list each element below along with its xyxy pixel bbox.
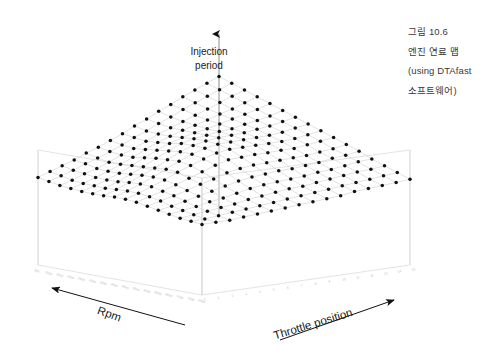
surface-point: [120, 153, 124, 157]
surface-point: [157, 132, 161, 136]
surface-point: [221, 196, 225, 200]
surface-point: [228, 148, 232, 152]
rpm-tick-label: 2500: [77, 276, 85, 282]
surface-point: [216, 142, 220, 146]
surface-point: [243, 113, 247, 117]
throttle-tick-label: 2: [231, 294, 234, 298]
surface-point: [294, 115, 298, 119]
surface-point: [331, 157, 335, 161]
surface-point: [283, 206, 287, 210]
surface-point: [305, 154, 309, 158]
surface-point: [260, 194, 264, 198]
surface-point: [140, 173, 144, 177]
figure-container: 8000750070006500600055005000450040003500…: [0, 0, 502, 361]
surface-point: [301, 184, 305, 188]
surface-point: [185, 189, 189, 193]
surface-point: [218, 88, 222, 92]
surface-point: [168, 135, 172, 139]
surface-point: [48, 170, 52, 174]
surface-point: [218, 130, 222, 134]
surface-point: [91, 192, 95, 196]
surface-point: [159, 199, 163, 203]
surface-point: [169, 103, 173, 107]
surface-point: [243, 131, 247, 135]
surface-point: [157, 122, 161, 126]
surface-point: [325, 197, 329, 201]
surface-point: [330, 168, 334, 172]
surface-point: [227, 158, 231, 162]
surface-point: [233, 202, 237, 206]
surface-point: [313, 191, 317, 195]
throttle-tick-label: 7: [300, 284, 303, 288]
surface-point: [130, 164, 134, 168]
surface-point: [193, 113, 197, 117]
surface-point: [191, 144, 195, 148]
surface-point: [215, 151, 219, 155]
surface-point: [217, 136, 221, 140]
surface-point: [194, 205, 198, 209]
surface-point: [318, 150, 322, 154]
surface-point: [129, 172, 133, 176]
surface-point: [208, 200, 212, 204]
surface-point: [281, 109, 285, 113]
surface-point: [205, 133, 209, 137]
surface-point: [85, 151, 89, 155]
surface-point: [157, 110, 161, 114]
surface-point: [299, 194, 303, 198]
surface-point: [132, 147, 136, 151]
surface-point: [70, 178, 74, 182]
surface-point: [254, 144, 257, 148]
surface-point: [187, 177, 191, 181]
surface-point: [121, 132, 125, 136]
surface-point: [96, 156, 100, 160]
surface-point: [203, 217, 207, 221]
surface-point: [36, 176, 40, 180]
surface-point: [157, 208, 161, 212]
surface-point: [344, 154, 348, 158]
surface-point: [217, 75, 221, 79]
surface-point: [293, 137, 297, 141]
surface-point: [266, 151, 270, 155]
surface-point: [229, 140, 233, 144]
surface-point: [230, 127, 234, 131]
throttle-tick-label: 1: [217, 296, 220, 300]
surface-point: [156, 141, 160, 145]
surface-point: [120, 143, 124, 147]
surface-point: [235, 192, 239, 196]
surface-point: [142, 165, 146, 169]
throttle-tick-label: 11: [356, 275, 361, 280]
surface-point: [264, 172, 268, 176]
surface-point: [113, 195, 117, 199]
surface-point: [193, 131, 197, 135]
surface-point: [169, 115, 173, 119]
throttle-tick-label: 12: [370, 273, 375, 278]
surface-point: [155, 148, 159, 152]
surface-point: [256, 119, 260, 123]
surface-point: [256, 212, 260, 216]
surface-point: [218, 101, 222, 105]
surface-point: [286, 197, 290, 201]
throttle-tick-label: 13: [383, 271, 388, 276]
surface-point: [252, 163, 256, 167]
throttle-tick-label: 14: [397, 269, 402, 274]
surface-point: [212, 177, 216, 181]
surface-point: [357, 149, 361, 153]
surface-point: [161, 189, 165, 193]
surface-point: [268, 114, 272, 118]
surface-point: [218, 112, 222, 116]
surface-point: [281, 130, 285, 134]
surface-point: [255, 136, 259, 140]
surface-point: [170, 204, 174, 208]
surface-point: [133, 124, 137, 128]
surface-point: [244, 207, 248, 211]
surface-point: [163, 178, 167, 182]
surface-point: [148, 195, 152, 199]
surface-point: [292, 147, 296, 151]
surface-point: [242, 138, 246, 142]
rpm-tick-label: 4500: [121, 284, 129, 290]
surface-point: [306, 122, 310, 126]
surface-point: [204, 139, 208, 143]
surface-point: [237, 179, 241, 183]
surface-point: [180, 142, 184, 146]
surface-point: [169, 126, 173, 130]
